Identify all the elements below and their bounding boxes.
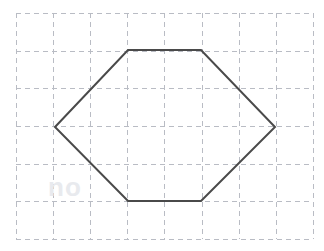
figure-canvas: no <box>0 0 324 251</box>
watermark: no <box>48 172 82 202</box>
hexagon-grid-figure: no <box>0 0 324 251</box>
watermark-text-0: no <box>48 172 82 202</box>
